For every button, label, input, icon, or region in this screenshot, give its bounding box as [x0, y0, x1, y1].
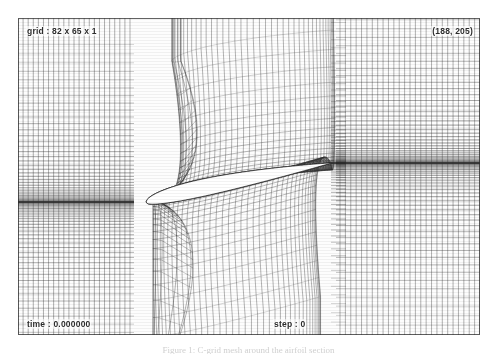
figure-caption: Figure 1: C-grid mesh around the airfoil…	[0, 345, 497, 354]
time-label: time : 0.000000	[26, 319, 91, 329]
figure-container: grid : 82 x 65 x 1 (188, 205) time : 0.0…	[0, 0, 497, 354]
mesh-plot-frame: grid : 82 x 65 x 1 (188, 205) time : 0.0…	[18, 18, 480, 335]
mesh-canvas	[18, 18, 480, 335]
grid-dimensions-label: grid : 82 x 65 x 1	[26, 26, 98, 36]
step-label: step : 0	[273, 319, 306, 329]
coordinates-label: (188, 205)	[431, 26, 474, 36]
